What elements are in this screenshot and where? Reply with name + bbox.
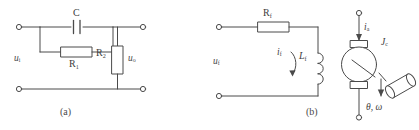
cylinder-top-edge bbox=[387, 74, 408, 86]
caption-b: (b) bbox=[306, 107, 318, 117]
terminal-in-top-b bbox=[216, 24, 221, 29]
circuit-figure: C R1 R2 ui uo (a) Rf Lf if uf ia Jc θ, ω… bbox=[0, 0, 419, 130]
current-arrow-if-head bbox=[289, 70, 295, 76]
resistor-rf-body bbox=[258, 22, 289, 32]
terminal-out-bot-a bbox=[140, 86, 145, 91]
shaft-rotation-arrow-head bbox=[378, 90, 384, 97]
current-arrow-ia-head bbox=[356, 34, 362, 41]
input-voltage-label-a: ui bbox=[14, 54, 20, 64]
inductor-lf-label: Lf bbox=[299, 51, 307, 62]
resistor-rf-label: Rf bbox=[263, 8, 272, 19]
resistor-r2-label: R2 bbox=[96, 48, 106, 59]
inductor-coil-2 bbox=[318, 63, 323, 73]
resistor-r1-label: R1 bbox=[69, 59, 79, 70]
terminal-motor-top bbox=[356, 10, 361, 15]
capacitor-label: C bbox=[73, 8, 80, 18]
terminal-in-bot-a bbox=[16, 86, 21, 91]
terminal-in-top-a bbox=[16, 24, 21, 29]
terminal-in-bot-b bbox=[216, 93, 221, 98]
motor-brush-bottom bbox=[351, 82, 368, 89]
caption-a: (a) bbox=[60, 107, 71, 117]
motor-body bbox=[342, 47, 377, 82]
inertia-jc-label: Jc bbox=[381, 38, 388, 48]
current-if-label: if bbox=[277, 48, 282, 58]
terminal-out-top-a bbox=[140, 24, 145, 29]
resistor-r1-body bbox=[61, 47, 92, 57]
current-ia-label: ia bbox=[364, 23, 369, 33]
resistor-r2-body bbox=[112, 46, 123, 74]
shaft-theta-omega-label: θ, ω bbox=[366, 103, 382, 113]
cylinder-far-cap bbox=[404, 72, 417, 87]
input-voltage-label-b: uf bbox=[213, 57, 220, 67]
motor-brush-top bbox=[351, 41, 368, 48]
inductor-coil-3 bbox=[318, 74, 323, 84]
output-voltage-label-a: uo bbox=[128, 54, 136, 64]
shaft-tick-1 bbox=[379, 73, 386, 81]
inductor-coil-1 bbox=[318, 53, 323, 63]
cylinder-near-cap bbox=[383, 84, 396, 99]
cylinder-bottom-edge bbox=[393, 86, 414, 98]
terminal-motor-bottom bbox=[356, 115, 361, 120]
